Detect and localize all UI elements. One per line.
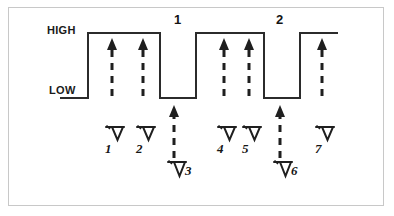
sample-arrow-7 (316, 38, 334, 140)
marker-number-4: 4 (217, 141, 224, 157)
cycle-label-2: 2 (276, 12, 283, 27)
sample-arrow-3 (168, 105, 186, 176)
sample-arrow-4 (218, 38, 236, 140)
marker-number-3: 3 (185, 163, 192, 179)
marker-number-2: 2 (136, 141, 143, 157)
cycle-label-1: 1 (174, 12, 181, 27)
waveform-trace (60, 33, 338, 98)
sample-arrow-1 (106, 38, 124, 140)
sample-arrow-2 (137, 38, 155, 140)
waveform-figure: HIGH LOW 1 2 1 2 3 4 5 6 7 (0, 0, 394, 216)
marker-number-1: 1 (105, 141, 112, 157)
sample-arrow-6 (274, 105, 292, 176)
marker-number-7: 7 (315, 141, 322, 157)
sample-arrow-5 (243, 38, 261, 140)
low-level-label: LOW (49, 84, 76, 96)
marker-number-5: 5 (242, 141, 249, 157)
marker-number-6: 6 (291, 163, 298, 179)
high-level-label: HIGH (47, 24, 76, 36)
